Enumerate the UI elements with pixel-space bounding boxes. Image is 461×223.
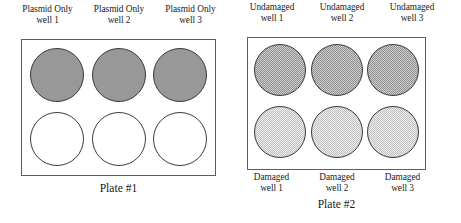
plate-2-footer-2-line-2: well 2	[305, 183, 370, 194]
plate-1-group: Plasmid Only well 1 Plasmid Only well 2 …	[12, 4, 226, 219]
plate-diagram-figure: Plasmid Only well 1 Plasmid Only well 2 …	[0, 0, 461, 223]
plate-2-top-well-row	[247, 44, 426, 96]
well-plasmid-only-2	[92, 48, 146, 102]
plate-1-header-well-3: Plasmid Only well 3	[155, 4, 226, 27]
plate-2-footer-3-line-1: Damaged	[370, 172, 435, 183]
plate-2-footer-2-line-1: Damaged	[305, 172, 370, 183]
plate-1-header-1-line-2: well 1	[12, 15, 83, 26]
well-empty-1	[30, 112, 84, 166]
plate-2-bottom-well-row	[247, 106, 426, 158]
plate-2-header-3-line-2: well 3	[377, 13, 447, 24]
plate-2-footer-3-line-2: well 3	[370, 183, 435, 194]
well-undamaged-1	[254, 44, 306, 96]
well-plasmid-only-3	[153, 48, 207, 102]
plate-2-group: Undamaged well 1 Undamaged well 2 Undama…	[235, 2, 461, 223]
plate-2-header-well-1: Undamaged well 1	[237, 2, 307, 25]
plate-2-header-3-line-1: Undamaged	[377, 2, 447, 13]
plate-2-footer-1-line-1: Damaged	[239, 172, 304, 183]
well-plasmid-only-1	[30, 48, 84, 102]
plate-2-header-2-line-1: Undamaged	[307, 2, 377, 13]
plate-2-header-2-line-2: well 2	[307, 13, 377, 24]
well-damaged-1	[254, 106, 306, 158]
well-damaged-2	[311, 106, 363, 158]
plate-2-footer-1-line-2: well 1	[239, 183, 304, 194]
plate-1-header-2-line-2: well 2	[84, 15, 155, 26]
plate-2-footer-well-2: Damaged well 2	[305, 172, 370, 195]
plate-1-top-well-row	[21, 48, 216, 102]
well-undamaged-3	[367, 44, 419, 96]
plate-1-header-1-line-1: Plasmid Only	[12, 4, 83, 15]
plate-2-header-well-2: Undamaged well 2	[307, 2, 377, 25]
plate-1-header-2-line-1: Plasmid Only	[84, 4, 155, 15]
well-empty-2	[92, 112, 146, 166]
plate-1-bottom-well-row	[21, 112, 216, 166]
well-undamaged-2	[311, 44, 363, 96]
plate-1-header-3-line-2: well 3	[155, 15, 226, 26]
plate-2-header-1-line-2: well 1	[237, 13, 307, 24]
plate-1-header-well-1: Plasmid Only well 1	[12, 4, 83, 27]
plate-1-column-headers: Plasmid Only well 1 Plasmid Only well 2 …	[12, 4, 226, 27]
plate-2-header-1-line-1: Undamaged	[237, 2, 307, 13]
plate-1-caption: Plate #1	[21, 182, 216, 195]
plate-2-footer-well-3: Damaged well 3	[370, 172, 435, 195]
well-empty-3	[153, 112, 207, 166]
plate-1-header-well-2: Plasmid Only well 2	[84, 4, 155, 27]
plate-2-footer-well-1: Damaged well 1	[239, 172, 304, 195]
plate-2-column-headers: Undamaged well 1 Undamaged well 2 Undama…	[237, 2, 447, 25]
plate-2-column-footers: Damaged well 1 Damaged well 2 Damaged we…	[239, 172, 435, 195]
plate-2-header-well-3: Undamaged well 3	[377, 2, 447, 25]
plate-1-header-3-line-1: Plasmid Only	[155, 4, 226, 15]
plate-2-caption: Plate #2	[247, 198, 426, 211]
well-damaged-3	[367, 106, 419, 158]
